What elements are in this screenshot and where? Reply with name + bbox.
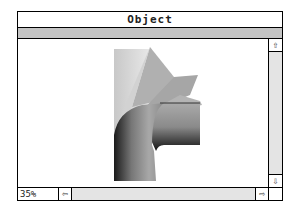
resize-grow-box[interactable] xyxy=(268,188,282,200)
object-window: Object xyxy=(17,11,283,201)
zoom-level[interactable]: 35% xyxy=(18,188,59,200)
pipe-elbow-render xyxy=(114,47,224,187)
scroll-left-arrow-icon[interactable]: ⇦ xyxy=(59,188,72,200)
title-bar[interactable]: Object xyxy=(18,12,282,28)
canvas-area[interactable] xyxy=(18,39,268,187)
scroll-right-arrow-icon[interactable]: ⇨ xyxy=(255,188,268,200)
horizontal-scrollbar[interactable]: ⇦ ⇨ xyxy=(59,188,268,200)
scroll-down-arrow-icon[interactable]: ⇩ xyxy=(269,174,282,187)
window-title: Object xyxy=(127,13,173,26)
vertical-scrollbar[interactable]: ⇧ ⇩ xyxy=(268,39,282,187)
bottom-bar: 35% ⇦ ⇨ xyxy=(18,187,282,200)
toolbar-strip xyxy=(18,28,282,39)
scroll-up-arrow-icon[interactable]: ⇧ xyxy=(269,39,282,52)
